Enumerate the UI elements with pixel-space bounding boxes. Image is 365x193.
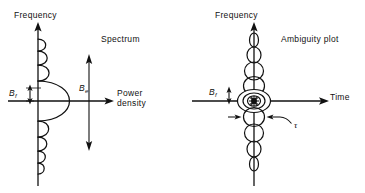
spectrum-power-label-line1: Power [117, 88, 143, 98]
ambiguity-title: Ambiguity plot [281, 34, 339, 44]
spectrum-bf-subscript: f [15, 93, 17, 99]
spectrum-panel [8, 22, 114, 186]
ambiguity-frequency-axis-label: Frequency [215, 10, 258, 20]
spectrum-envelope-curve [38, 39, 70, 174]
diagram-svg [0, 0, 365, 193]
ambiguity-bf-subscript: f [215, 92, 217, 98]
ambiguity-bf-label: Bf [209, 87, 217, 100]
ambiguity-tau-extent-arrow [228, 114, 292, 123]
ambiguity-tau-label: τ [294, 120, 298, 130]
spectrum-frequency-axis [34, 22, 41, 186]
ambiguity-central-lobe [238, 90, 271, 113]
spectrum-power-label-line2: density [117, 98, 146, 108]
ambiguity-panel [192, 22, 329, 186]
spectrum-be-label: Be [79, 83, 88, 96]
spectrum-be-extent-arrow [86, 54, 92, 151]
figure-canvas: Frequency Spectrum Bf Be Power density F… [0, 0, 365, 193]
ambiguity-core-hatching [249, 96, 259, 106]
spectrum-be-subscript: e [85, 88, 88, 94]
spectrum-power-density-axis [8, 97, 114, 104]
ambiguity-time-axis-label: Time [330, 92, 350, 102]
spectrum-title: Spectrum [101, 34, 140, 44]
spectrum-bf-label: Bf [9, 88, 17, 101]
spectrum-frequency-axis-label: Frequency [14, 10, 57, 20]
ambiguity-bf-extent-arrow [227, 87, 232, 105]
